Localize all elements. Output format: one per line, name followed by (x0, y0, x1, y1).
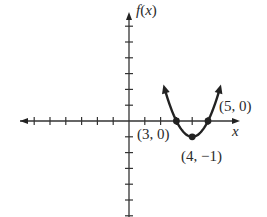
x-axis-label: x (232, 124, 239, 139)
point-marker (173, 118, 180, 125)
curve-left-arrow-icon (162, 84, 170, 94)
point-marker (189, 133, 196, 140)
y-axis-up-arrow-icon (126, 12, 132, 20)
point-label-5-0: (5, 0) (219, 99, 252, 114)
curve-right-arrow-icon (215, 84, 223, 94)
point-marker (205, 118, 212, 125)
point-label-3-0: (3, 0) (137, 127, 170, 142)
x-axis-left-arrow-icon (20, 118, 28, 124)
parabola-curve (165, 89, 220, 137)
point-label-4-neg1: (4, −1) (181, 149, 222, 164)
y-axis-label: f(x) (136, 3, 157, 18)
